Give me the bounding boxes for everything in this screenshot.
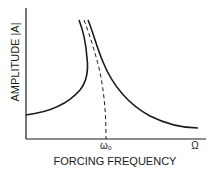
y-axis-label: AMPLITUDE |A| <box>9 22 21 101</box>
left-branch-curve <box>26 20 87 115</box>
resonance-diagram: ω₀ Ω FORCING FREQUENCY AMPLITUDE |A| <box>0 0 215 178</box>
x-axis-label: FORCING FREQUENCY <box>54 155 178 167</box>
tick-omega: Ω <box>191 140 199 151</box>
tick-omega0: ω₀ <box>100 140 112 151</box>
right-branch-curve <box>88 20 198 128</box>
